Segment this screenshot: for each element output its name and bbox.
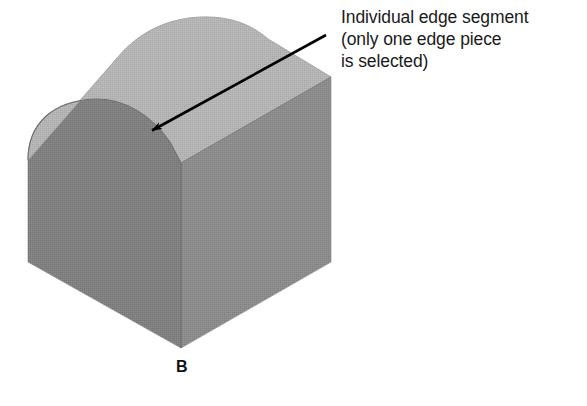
annotation-text: Individual edge segment (only one edge p… (341, 6, 587, 72)
block-solid (28, 17, 331, 348)
annotation-line-3: is selected) (341, 50, 587, 72)
block-front-face (28, 99, 181, 348)
figure-canvas: Individual edge segment (only one edge p… (0, 0, 587, 406)
figure-label-b: B (176, 358, 188, 376)
annotation-line-2: (only one edge piece (341, 28, 587, 50)
annotation-line-1: Individual edge segment (341, 6, 587, 28)
